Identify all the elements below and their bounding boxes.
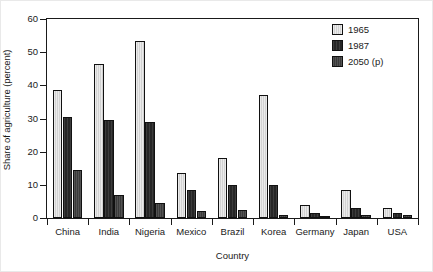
- bar-group: [294, 19, 335, 218]
- x-axis-tick: [253, 219, 254, 225]
- legend-swatch-1987-icon: [332, 40, 343, 51]
- bar[interactable]: [383, 208, 393, 218]
- legend-item[interactable]: 1987: [332, 38, 412, 52]
- bar[interactable]: [320, 216, 330, 218]
- x-axis-category-label: Mexico: [171, 226, 212, 237]
- legend-label: 1965: [348, 24, 369, 35]
- x-axis-tick: [418, 219, 419, 225]
- legend-label: 1987: [348, 40, 369, 51]
- x-axis-tick: [171, 219, 172, 225]
- x-axis-category-label: Korea: [253, 226, 294, 237]
- x-axis-category-label: Nigeria: [129, 226, 170, 237]
- y-axis-title: Share of agriculture (percent): [0, 0, 14, 220]
- x-axis-category-label: Brazil: [212, 226, 253, 237]
- legend-swatch-1965-icon: [332, 24, 343, 35]
- y-axis-tick-label: 50: [14, 47, 38, 57]
- bar[interactable]: [177, 173, 187, 218]
- legend-item[interactable]: 2050 (p): [332, 54, 412, 68]
- bar-group: [88, 19, 129, 218]
- y-axis-tick-label: 10: [14, 180, 38, 190]
- legend: 1965 1987 2050 (p): [332, 22, 412, 70]
- bar[interactable]: [218, 158, 228, 218]
- bar[interactable]: [73, 170, 83, 218]
- x-axis-category-label: USA: [377, 226, 418, 237]
- bar[interactable]: [403, 215, 413, 218]
- bar[interactable]: [310, 213, 320, 218]
- x-axis-tick: [212, 219, 213, 225]
- bar[interactable]: [259, 95, 269, 218]
- x-axis-tick: [294, 219, 295, 225]
- bar[interactable]: [393, 213, 403, 218]
- legend-swatch-2050-icon: [332, 56, 343, 67]
- x-axis-category-label: Germany: [294, 226, 335, 237]
- bar-group: [253, 19, 294, 218]
- bar[interactable]: [341, 190, 351, 218]
- bar[interactable]: [155, 203, 165, 218]
- bar[interactable]: [104, 120, 114, 218]
- y-axis-tick-label: 40: [14, 80, 38, 90]
- y-axis-tick-label: 0: [14, 213, 38, 223]
- bar[interactable]: [114, 195, 124, 218]
- bar[interactable]: [238, 210, 248, 218]
- bar[interactable]: [63, 117, 73, 218]
- bar[interactable]: [187, 190, 197, 218]
- x-axis-title: Country: [46, 250, 419, 261]
- bar[interactable]: [197, 211, 207, 218]
- legend-item[interactable]: 1965: [332, 22, 412, 36]
- bar-group: [171, 19, 212, 218]
- y-axis-tick-label: 30: [14, 114, 38, 124]
- bar[interactable]: [53, 90, 63, 218]
- bar-group: [47, 19, 88, 218]
- bar[interactable]: [361, 215, 371, 218]
- bar[interactable]: [94, 64, 104, 218]
- bar-group: [212, 19, 253, 218]
- bar[interactable]: [135, 41, 145, 218]
- x-axis-tick: [47, 219, 48, 225]
- x-axis-tick: [88, 219, 89, 225]
- x-axis-tick: [336, 219, 337, 225]
- bar-chart-figure: Share of agriculture (percent) 010203040…: [0, 0, 433, 272]
- bar-group: [129, 19, 170, 218]
- x-axis-tick: [377, 219, 378, 225]
- legend-label: 2050 (p): [348, 56, 383, 67]
- x-axis-category-label: India: [88, 226, 129, 237]
- bar[interactable]: [351, 208, 361, 218]
- bar[interactable]: [300, 205, 310, 218]
- x-axis-category-label: Japan: [336, 226, 377, 237]
- bar[interactable]: [228, 185, 238, 218]
- y-axis-tick-label: 60: [14, 14, 38, 24]
- x-axis-tick: [129, 219, 130, 225]
- bar[interactable]: [279, 215, 289, 218]
- bar[interactable]: [269, 185, 279, 218]
- y-axis-tick-label: 20: [14, 147, 38, 157]
- bar[interactable]: [145, 122, 155, 218]
- x-axis-category-label: China: [47, 226, 88, 237]
